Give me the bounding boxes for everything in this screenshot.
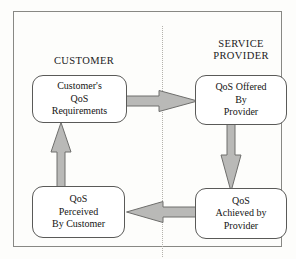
node-qos-perceived-by-customer[interactable]: QoS Perceived By Customer <box>32 186 125 238</box>
domain-label-service-provider: SERVICE PROVIDER <box>200 38 282 61</box>
arrow-achieved-to-perceived-icon <box>126 201 198 223</box>
qos-diagram-canvas: CUSTOMER SERVICE PROVIDER Customer's QoS… <box>0 0 296 259</box>
node-qos-offered-by-provider[interactable]: QoS Offered By Provider <box>195 75 287 125</box>
node-customer-qos-requirements[interactable]: Customer's QoS Requirements <box>32 75 127 123</box>
arrow-offered-to-achieved-icon <box>220 122 242 192</box>
arrow-requirements-to-offered-icon <box>124 90 198 112</box>
node-qos-achieved-by-provider[interactable]: QoS Achieved by Provider <box>195 188 287 239</box>
domain-label-customer: CUSTOMER <box>34 55 134 67</box>
arrow-perceived-to-requirements-icon <box>50 122 72 190</box>
diagram-frame: CUSTOMER SERVICE PROVIDER Customer's QoS… <box>13 11 282 247</box>
